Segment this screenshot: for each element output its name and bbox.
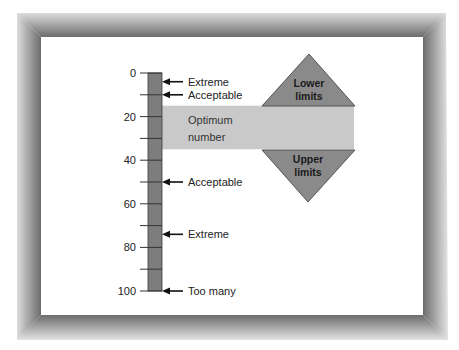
marker-label: Extreme xyxy=(188,76,229,88)
marker-label: Too many xyxy=(188,285,236,297)
tick-label: 20 xyxy=(124,111,136,123)
tick-label: 40 xyxy=(124,154,136,166)
upper-limits-line2: limits xyxy=(294,166,322,178)
marker-label: Acceptable xyxy=(188,89,242,101)
tick-label: 60 xyxy=(124,198,136,210)
lower-limits-line2: limits xyxy=(295,90,323,102)
marker-label: Acceptable xyxy=(188,176,242,188)
tick-label: 0 xyxy=(130,67,136,79)
lower-limits-line1: Lower xyxy=(294,77,325,89)
tick-label: 80 xyxy=(124,241,136,253)
marker-label: Extreme xyxy=(188,228,229,240)
optimum-label-line2: number xyxy=(188,131,226,143)
diagram-canvas: Optimum number Lower limits Upper limits… xyxy=(0,0,459,350)
optimum-label-line1: Optimum xyxy=(188,114,233,126)
tick-label: 100 xyxy=(118,285,136,297)
optimum-band: Optimum number xyxy=(162,106,354,150)
upper-limits-line1: Upper xyxy=(293,153,323,165)
